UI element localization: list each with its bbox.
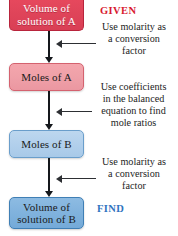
arrow-head bbox=[56, 40, 62, 48]
down-arrow-icon-2 bbox=[44, 91, 54, 130]
arrow-shaft bbox=[48, 31, 50, 58]
stoichiometry-flowchart: Volume of solution of A Moles of A Moles… bbox=[0, 0, 178, 236]
arrow-shaft bbox=[62, 178, 96, 179]
down-arrow-icon-3 bbox=[44, 158, 54, 197]
flow-box-moles-of-a-label: Moles of A bbox=[19, 71, 74, 83]
annotation-step-2: Use coefficients in the balanced equatio… bbox=[90, 81, 177, 129]
annotation-line-3: equation to find bbox=[101, 105, 166, 116]
flow-box-line-2: solution of B bbox=[17, 213, 76, 225]
annotation-line-3: factor bbox=[122, 180, 146, 191]
annotation-line-1: Use molarity as bbox=[102, 156, 166, 167]
flow-box-volume-of-solution-of-b-label: Volume of solution of B bbox=[15, 201, 78, 226]
annotation-step-3: Use molarity as a conversion factor bbox=[92, 156, 176, 192]
annotation-line-1: Use molarity as bbox=[102, 21, 166, 32]
annotation-line-2: a conversion bbox=[108, 33, 160, 44]
arrow-shaft bbox=[48, 158, 50, 192]
arrow-head bbox=[56, 108, 62, 116]
annotation-step-1: Use molarity as a conversion factor bbox=[92, 21, 176, 57]
flow-box-line-1: Volume of bbox=[23, 201, 70, 213]
find-label: FIND bbox=[97, 203, 124, 214]
flow-box-moles-of-b-label: Moles of B bbox=[19, 138, 74, 150]
left-arrow-icon-3 bbox=[56, 175, 96, 183]
flow-box-line-1: Volume of bbox=[23, 2, 70, 14]
flow-box-line-2: solution of A bbox=[17, 15, 76, 27]
flow-box-moles-of-b: Moles of B bbox=[9, 130, 84, 158]
annotation-line-1: Use coefficients bbox=[101, 81, 167, 92]
given-label: GIVEN bbox=[100, 5, 136, 16]
annotation-line-4: mole ratios bbox=[111, 117, 157, 128]
left-arrow-icon-2 bbox=[56, 108, 92, 116]
left-arrow-icon-1 bbox=[56, 40, 96, 48]
annotation-line-3: factor bbox=[122, 45, 146, 56]
annotation-line-2: a conversion bbox=[108, 168, 160, 179]
arrow-shaft bbox=[62, 111, 92, 112]
flow-box-volume-of-solution-of-b: Volume of solution of B bbox=[9, 197, 84, 229]
flow-box-volume-of-solution-of-a-label: Volume of solution of A bbox=[15, 2, 78, 27]
arrow-shaft bbox=[62, 43, 96, 44]
flow-box-volume-of-solution-of-a: Volume of solution of A bbox=[9, 0, 84, 31]
flow-box-moles-of-a: Moles of A bbox=[9, 63, 84, 91]
arrow-shaft bbox=[48, 91, 50, 125]
arrow-head bbox=[56, 175, 62, 183]
annotation-line-2: in the balanced bbox=[103, 93, 165, 104]
down-arrow-icon-1 bbox=[44, 31, 54, 63]
